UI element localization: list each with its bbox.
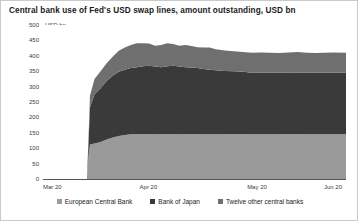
- plot-area-wrapper: USD bn 500450400350300250200150100500 Ma…: [1, 19, 358, 184]
- y-axis-ticks: 500450400350300250200150100500: [13, 19, 39, 179]
- x-axis-tick-label: Apr 20: [140, 184, 158, 190]
- x-axis-tick-label: Mar 20: [43, 184, 62, 190]
- y-axis-tick-label: 200: [17, 114, 39, 120]
- legend-item[interactable]: European Central Bank: [57, 198, 133, 205]
- x-axis-tick-label: May 20: [247, 184, 267, 190]
- y-axis-tick-label: 100: [17, 145, 39, 151]
- x-axis-line: [43, 179, 346, 180]
- y-axis-tick-label: 300: [17, 84, 39, 90]
- x-axis-tick-label: Jun 20: [324, 184, 342, 190]
- area-series-svg: [43, 25, 346, 179]
- legend-item[interactable]: Twelve other central banks: [218, 198, 303, 205]
- y-axis-tick-label: 400: [17, 53, 39, 59]
- legend-swatch-icon: [150, 199, 155, 204]
- y-axis-tick-label: 150: [17, 130, 39, 136]
- y-axis-tick-label: 0: [17, 176, 39, 182]
- chart-title: Central bank use of Fed's USD swap lines…: [9, 6, 349, 15]
- chart-legend: European Central BankBank of JapanTwelve…: [1, 198, 358, 205]
- y-axis-tick-label: 50: [17, 161, 39, 167]
- chart-figure: Central bank use of Fed's USD swap lines…: [0, 0, 358, 221]
- y-axis-tick-label: 500: [17, 22, 39, 28]
- legend-label: Bank of Japan: [158, 198, 200, 205]
- y-axis-tick-label: 350: [17, 68, 39, 74]
- stacked-area-plot: [43, 25, 346, 179]
- legend-swatch-icon: [218, 199, 223, 204]
- legend-label: Twelve other central banks: [226, 198, 303, 205]
- y-axis-tick-label: 450: [17, 37, 39, 43]
- legend-item[interactable]: Bank of Japan: [150, 198, 200, 205]
- legend-swatch-icon: [57, 199, 62, 204]
- legend-label: European Central Bank: [65, 198, 133, 205]
- y-axis-tick-label: 250: [17, 99, 39, 105]
